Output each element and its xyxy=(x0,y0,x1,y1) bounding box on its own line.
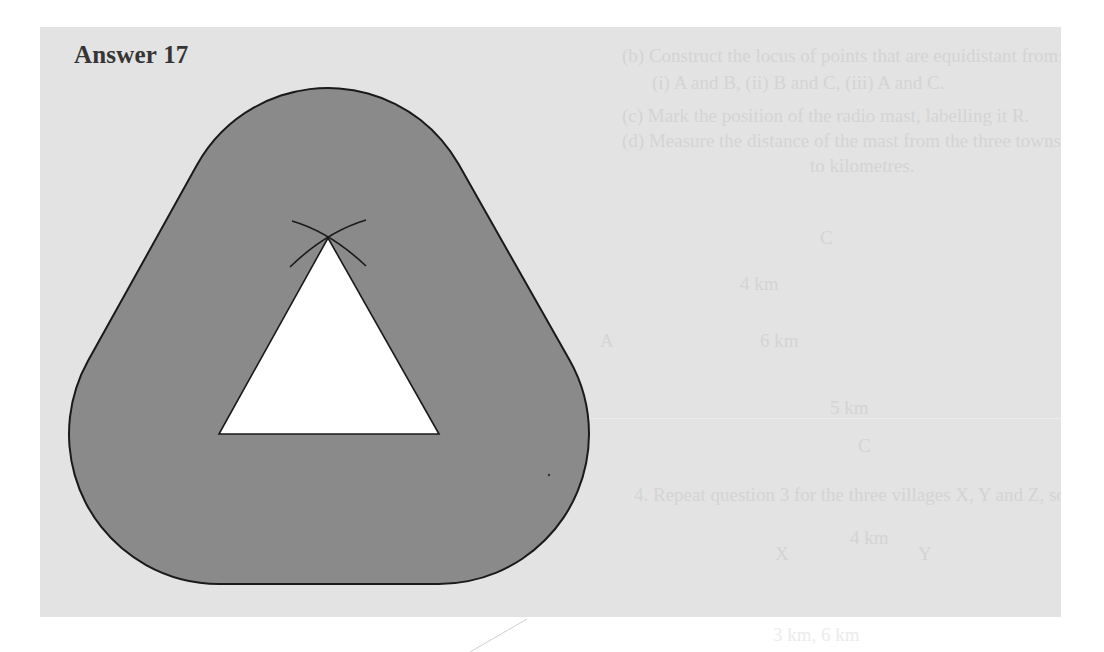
locus-figure xyxy=(0,0,1104,652)
bleed-text-below: 3 km, 6 km xyxy=(773,624,860,646)
speck-dot xyxy=(548,474,550,476)
page: (b) Construct the locus of points that a… xyxy=(0,0,1104,652)
stray-line xyxy=(470,619,527,652)
